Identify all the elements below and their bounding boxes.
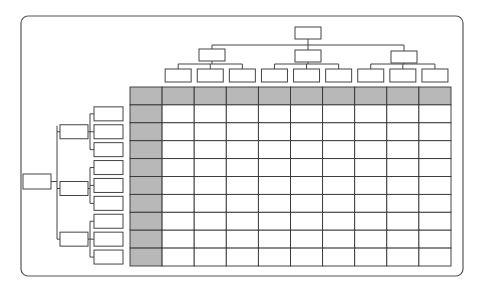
matrix-cell (258, 105, 290, 123)
matrix-cell (291, 159, 323, 177)
top-group-node (391, 51, 417, 63)
matrix-cell (194, 194, 226, 212)
matrix-cell (355, 141, 387, 159)
matrix-cell (387, 230, 419, 248)
matrix-cell (291, 123, 323, 141)
matrix-grid (130, 87, 451, 266)
matrix-cell (162, 159, 194, 177)
hierarchical-matrix-diagram (0, 0, 479, 289)
matrix-cell (323, 159, 355, 177)
matrix-cell (162, 212, 194, 230)
top-leaf-node (326, 69, 352, 82)
matrix-cell (419, 248, 451, 266)
left-leaf-node (94, 178, 123, 192)
matrix-header-cell (387, 87, 419, 105)
matrix-cell (387, 194, 419, 212)
matrix-cell (291, 248, 323, 266)
top-leaf-node (422, 69, 448, 82)
matrix-header-cell (258, 87, 290, 105)
matrix-cell (419, 105, 451, 123)
left-leaf-node (94, 250, 123, 264)
matrix-header-cell (130, 212, 162, 230)
matrix-header-cell (130, 230, 162, 248)
left-group-node (60, 182, 88, 196)
matrix-cell (258, 141, 290, 159)
matrix-cell (419, 159, 451, 177)
matrix-cell (387, 159, 419, 177)
matrix-cell (355, 123, 387, 141)
matrix-cell (323, 194, 355, 212)
matrix-cell (194, 123, 226, 141)
matrix-cell (291, 141, 323, 159)
matrix-header-cell (130, 159, 162, 177)
matrix-cell (258, 194, 290, 212)
matrix-header-cell (130, 87, 162, 105)
matrix-header-cell (226, 87, 258, 105)
matrix-cell (387, 248, 419, 266)
top-leaf-node (294, 69, 320, 82)
matrix-cell (419, 212, 451, 230)
matrix-cell (194, 105, 226, 123)
matrix-cell (194, 177, 226, 195)
matrix-cell (258, 123, 290, 141)
left-leaf-node (94, 232, 123, 246)
top-leaf-node (358, 69, 384, 82)
matrix-header-cell (130, 177, 162, 195)
top-leaf-node (165, 69, 191, 82)
matrix-cell (162, 141, 194, 159)
left-group-node (60, 125, 88, 139)
matrix-cell (355, 212, 387, 230)
matrix-cell (387, 212, 419, 230)
matrix-cell (194, 159, 226, 177)
matrix-cell (355, 230, 387, 248)
matrix-cell (323, 177, 355, 195)
top-root-node (295, 27, 321, 39)
left-leaf-node (94, 107, 123, 121)
left-root-node (23, 174, 51, 189)
matrix-cell (226, 212, 258, 230)
matrix-cell (323, 123, 355, 141)
matrix-cell (419, 177, 451, 195)
left-leaf-node (94, 214, 123, 228)
matrix-cell (194, 230, 226, 248)
matrix-cell (355, 248, 387, 266)
matrix-cell (258, 159, 290, 177)
matrix-cell (258, 177, 290, 195)
matrix-header-cell (130, 248, 162, 266)
matrix-header-cell (130, 194, 162, 212)
matrix-cell (387, 105, 419, 123)
matrix-cell (419, 230, 451, 248)
matrix-cell (355, 159, 387, 177)
top-leaf-node (390, 69, 416, 82)
matrix-cell (162, 123, 194, 141)
matrix-header-cell (355, 87, 387, 105)
matrix-cell (162, 230, 194, 248)
top-group-node (199, 49, 225, 61)
matrix-cell (194, 212, 226, 230)
matrix-cell (355, 194, 387, 212)
matrix-cell (419, 194, 451, 212)
matrix-header-cell (130, 105, 162, 123)
matrix-cell (387, 177, 419, 195)
matrix-header-cell (419, 87, 451, 105)
matrix-cell (355, 105, 387, 123)
matrix-cell (387, 141, 419, 159)
matrix-header-cell (323, 87, 355, 105)
matrix-header-cell (194, 87, 226, 105)
top-leaf-node (197, 69, 223, 82)
matrix-cell (291, 212, 323, 230)
matrix-cell (162, 248, 194, 266)
left-leaf-node (94, 143, 123, 157)
matrix-cell (162, 105, 194, 123)
matrix-cell (323, 248, 355, 266)
matrix-cell (258, 230, 290, 248)
matrix-header-cell (291, 87, 323, 105)
matrix-header-cell (130, 141, 162, 159)
matrix-cell (226, 123, 258, 141)
matrix-cell (226, 194, 258, 212)
matrix-cell (419, 123, 451, 141)
matrix-cell (291, 230, 323, 248)
matrix-cell (419, 141, 451, 159)
diagram-canvas (0, 0, 479, 289)
matrix-cell (226, 159, 258, 177)
